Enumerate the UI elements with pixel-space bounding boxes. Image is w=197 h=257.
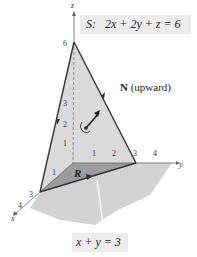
normal-label: N (upward) bbox=[120, 81, 171, 93]
y-tick-1: 1 bbox=[92, 149, 96, 158]
x-tick-4: 4 bbox=[18, 201, 22, 210]
z-tick-3: 3 bbox=[63, 99, 67, 108]
surface-name: S: bbox=[86, 17, 96, 31]
surface-integral-diagram: 6 3 2 1 1 2 3 4 y 1 3 4 x z S: 2x + 2y +… bbox=[0, 0, 197, 257]
normal-text: (upward) bbox=[131, 81, 171, 93]
x-tick-3: 3 bbox=[29, 190, 33, 199]
y-tick-2: 2 bbox=[112, 149, 116, 158]
x-tick-1: 1 bbox=[52, 168, 56, 177]
y-tick-4: 4 bbox=[153, 149, 157, 158]
surface-equation: 2x + 2y + z = 6 bbox=[105, 17, 181, 31]
y-tick-3: 3 bbox=[133, 149, 137, 158]
normal-symbol: N bbox=[120, 81, 128, 93]
z-axis-label: z bbox=[70, 1, 75, 10]
region-label: R bbox=[74, 167, 81, 179]
z-axis-arrow-icon bbox=[72, 11, 76, 16]
z-tick-2: 2 bbox=[63, 120, 67, 129]
z-tick-6: 6 bbox=[63, 39, 67, 48]
diagram-canvas: 6 3 2 1 1 2 3 4 y 1 3 4 x z bbox=[0, 0, 197, 257]
x-axis-label: x bbox=[10, 214, 15, 223]
surface-label: S: 2x + 2y + z = 6 bbox=[86, 17, 181, 32]
z-tick-1: 1 bbox=[63, 139, 67, 148]
normal-base-dot bbox=[84, 126, 88, 130]
y-axis-label: y bbox=[178, 160, 183, 169]
line-label: x + y = 3 bbox=[76, 235, 121, 250]
